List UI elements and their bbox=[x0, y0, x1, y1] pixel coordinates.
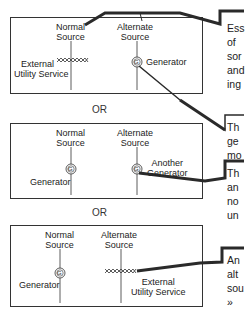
external-utility-label: External Utility Service bbox=[131, 277, 186, 297]
alternate-source-label: Alternate Source bbox=[117, 22, 153, 42]
generator-label: Generator bbox=[19, 280, 60, 290]
generator-g-glyph: G bbox=[57, 268, 62, 278]
generator-label: Generator bbox=[146, 57, 187, 67]
generator-label: Generator bbox=[30, 177, 71, 187]
generator-g-glyph: G bbox=[68, 164, 73, 174]
callout-text-4: An alt sou » bbox=[227, 253, 244, 309]
callout-connector-1 bbox=[85, 11, 244, 25]
external-utility-label-2: Utility Service bbox=[14, 69, 69, 79]
another-generator-label: Another Generator bbox=[147, 158, 188, 178]
normal-source-label: Normal Source bbox=[56, 22, 85, 42]
normal-source-label: Normal Source bbox=[56, 128, 85, 148]
normal-source-label: Normal Source bbox=[45, 230, 74, 250]
callout-text-1: Ess of sor and ing bbox=[227, 21, 245, 91]
utility-service-icon bbox=[57, 58, 88, 62]
callout-text-3: Th an no un bbox=[227, 166, 239, 222]
callout-text-2: Th ge mo bbox=[227, 120, 242, 162]
external-utility-label: External bbox=[14, 59, 54, 69]
utility-service-icon bbox=[105, 269, 136, 273]
or-separator: OR bbox=[92, 207, 107, 218]
or-separator: OR bbox=[92, 104, 107, 115]
generator-g-glyph: G bbox=[134, 164, 139, 174]
alternate-source-label: Alternate Source bbox=[101, 230, 137, 250]
alternate-source-label: Alternate Source bbox=[117, 128, 153, 148]
generator-g-glyph: G bbox=[134, 57, 139, 67]
